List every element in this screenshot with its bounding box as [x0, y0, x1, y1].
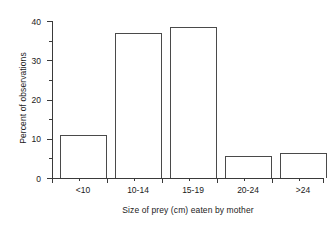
plot-area: 0 10 20 30 40	[52, 21, 324, 178]
x-tick-label-20-24: 20-24	[237, 185, 259, 195]
y-axis-line	[52, 21, 53, 178]
y-tick-10: 10	[47, 139, 52, 140]
x-axis-line	[52, 178, 324, 179]
y-tick-40: 40	[47, 21, 52, 22]
x-tick-boundary-5	[323, 178, 324, 183]
y-tick-minor-5	[49, 158, 52, 159]
y-axis-title: Percent of observations	[18, 28, 28, 168]
y-tick-minor-25	[49, 80, 52, 81]
y-tick-label-10: 10	[32, 134, 41, 144]
x-tick-label-15-19: 15-19	[182, 185, 204, 195]
x-tick-label-10-14: 10-14	[127, 185, 149, 195]
x-tick-label-lt10: <10	[76, 185, 90, 195]
x-tick-minor-0	[79, 178, 80, 181]
x-tick-boundary-2	[162, 178, 163, 183]
y-tick-label-0: 0	[36, 174, 41, 184]
x-tick-boundary-3	[217, 178, 218, 183]
x-tick-minor-4	[299, 178, 300, 181]
bar-10-14	[115, 33, 162, 178]
y-tick-label-30: 30	[32, 56, 41, 66]
x-axis-title: Size of prey (cm) eaten by mother	[52, 205, 324, 215]
x-tick-boundary-4	[272, 178, 273, 183]
bar-gt24	[280, 153, 327, 179]
x-tick-minor-3	[244, 178, 245, 181]
bar-lt10	[60, 135, 107, 178]
y-tick-minor-15	[49, 119, 52, 120]
y-tick-20: 20	[47, 100, 52, 101]
x-tick-boundary-1	[107, 178, 108, 183]
x-tick-minor-2	[189, 178, 190, 181]
x-tick-boundary-0	[52, 178, 53, 183]
bar-20-24	[225, 156, 272, 178]
x-tick-label-gt24: >24	[296, 185, 310, 195]
y-tick-30: 30	[47, 60, 52, 61]
x-tick-minor-1	[134, 178, 135, 181]
bar-15-19	[170, 27, 217, 178]
prey-size-bar-chart: Percent of observations 0 10 20 30 40	[0, 0, 333, 237]
y-tick-label-40: 40	[32, 17, 41, 27]
y-tick-label-20: 20	[32, 95, 41, 105]
y-tick-minor-35	[49, 41, 52, 42]
